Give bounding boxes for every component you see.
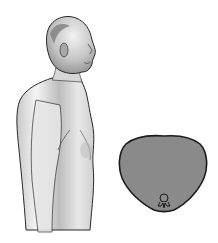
person-profile-icon — [0, 0, 110, 243]
head-shape — [47, 17, 96, 74]
thorax-cross-section-icon — [118, 132, 210, 216]
ear-shape — [60, 43, 68, 57]
